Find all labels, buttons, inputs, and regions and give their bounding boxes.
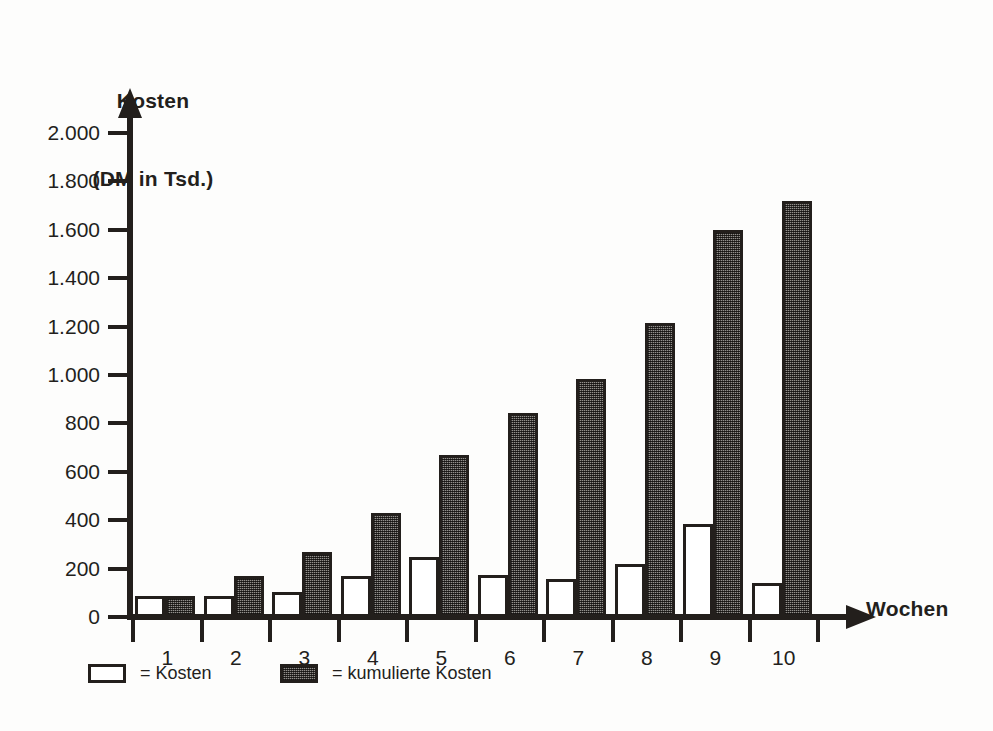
x-axis-tick-label: 8 xyxy=(617,646,677,670)
x-axis-tick xyxy=(474,620,478,642)
y-axis-tick xyxy=(108,276,130,280)
legend-label-kosten: = Kosten xyxy=(140,663,212,683)
bar-kosten-week-8 xyxy=(615,564,645,617)
y-axis-tick-label: 200 xyxy=(0,558,100,579)
y-axis-tick xyxy=(108,131,130,135)
bar-kumuliert-week-5 xyxy=(439,455,469,617)
y-axis-tick-label: 600 xyxy=(0,461,100,482)
x-axis-tick xyxy=(268,620,272,642)
bar-kumuliert-week-1 xyxy=(165,596,195,617)
bar-kosten-week-5 xyxy=(409,557,439,618)
x-axis-tick xyxy=(542,620,546,642)
legend-item-kosten: = Kosten xyxy=(88,663,212,683)
y-axis-tick-label: 800 xyxy=(0,412,100,433)
bar-kumuliert-week-3 xyxy=(302,552,332,617)
legend-item-kumulierte-kosten: = kumulierte Kosten xyxy=(280,663,492,683)
bar-kumuliert-week-10 xyxy=(782,201,812,617)
y-axis-tick xyxy=(108,518,130,522)
legend-label-kumulierte-kosten: = kumulierte Kosten xyxy=(332,663,492,683)
x-axis-tick xyxy=(748,620,752,642)
y-axis-tick-label: 2.000 xyxy=(0,122,100,143)
y-axis-line xyxy=(127,112,133,620)
plot-area: 02004006008001.0001.2001.4001.6001.8002.… xyxy=(0,0,993,731)
x-axis-tick xyxy=(816,620,820,642)
x-axis-tick-label: 9 xyxy=(685,646,745,670)
bar-kosten-week-4 xyxy=(341,576,371,617)
bar-kosten-week-3 xyxy=(272,592,302,617)
x-axis-arrowhead-icon xyxy=(846,605,876,629)
y-axis-tick xyxy=(108,567,130,571)
y-axis-tick-label: 400 xyxy=(0,509,100,530)
y-axis-tick-label: 1.400 xyxy=(0,267,100,288)
y-axis-arrowhead-icon xyxy=(118,88,142,118)
x-axis-tick xyxy=(611,620,615,642)
x-axis-tick xyxy=(131,620,135,642)
y-axis-tick xyxy=(108,179,130,183)
y-axis-tick-label: 1.200 xyxy=(0,316,100,337)
bar-kosten-week-9 xyxy=(683,524,713,617)
legend-swatch-kumulierte-kosten xyxy=(280,664,318,683)
chart-page: Kosten (DM in Tsd.) Wochen 0200400600800… xyxy=(0,0,993,731)
x-axis-tick xyxy=(200,620,204,642)
y-axis-tick xyxy=(108,228,130,232)
x-axis-tick-label: 7 xyxy=(548,646,608,670)
bar-kumuliert-week-6 xyxy=(508,413,538,617)
bar-kumuliert-week-9 xyxy=(713,230,743,617)
x-axis-tick xyxy=(337,620,341,642)
bar-kosten-week-2 xyxy=(204,596,234,617)
legend-swatch-kosten xyxy=(88,664,126,683)
x-axis-tick xyxy=(679,620,683,642)
x-axis-tick-label: 10 xyxy=(754,646,814,670)
bar-kumuliert-week-8 xyxy=(645,323,675,617)
x-axis-tick xyxy=(405,620,409,642)
y-axis-tick xyxy=(108,470,130,474)
y-axis-tick xyxy=(108,421,130,425)
y-axis-tick xyxy=(108,615,130,619)
x-axis-tick-label: 2 xyxy=(206,646,266,670)
y-axis-tick-label: 1.000 xyxy=(0,364,100,385)
bar-kosten-week-6 xyxy=(478,575,508,617)
bar-kumuliert-week-7 xyxy=(576,379,606,617)
bar-kumuliert-week-2 xyxy=(234,576,264,617)
y-axis-tick xyxy=(108,373,130,377)
y-axis-tick-label: 0 xyxy=(0,606,100,627)
y-axis-tick-label: 1.800 xyxy=(0,170,100,191)
bar-kumuliert-week-4 xyxy=(371,513,401,617)
bar-kosten-week-10 xyxy=(752,583,782,617)
bar-kosten-week-1 xyxy=(135,596,165,617)
bar-kosten-week-7 xyxy=(546,579,576,617)
y-axis-tick xyxy=(108,325,130,329)
y-axis-tick-label: 1.600 xyxy=(0,219,100,240)
